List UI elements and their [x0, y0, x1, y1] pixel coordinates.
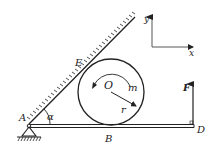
- ground-hatching: [18, 137, 41, 141]
- label-D: D: [196, 124, 205, 135]
- label-m: m: [128, 82, 137, 93]
- statics-diagram: A α E O m r B D F y x: [0, 0, 216, 157]
- label-E: E: [74, 57, 83, 68]
- label-A: A: [18, 112, 26, 123]
- label-B: B: [104, 133, 112, 144]
- coordinate-axes: [152, 17, 193, 47]
- label-O: O: [104, 79, 113, 92]
- label-F: F: [182, 82, 191, 93]
- pin-support: [17, 124, 41, 141]
- label-r: r: [121, 104, 127, 115]
- label-y: y: [143, 14, 150, 24]
- label-x: x: [189, 48, 194, 58]
- label-alpha: α: [47, 111, 54, 122]
- moment-arrowhead-icon: [92, 82, 97, 89]
